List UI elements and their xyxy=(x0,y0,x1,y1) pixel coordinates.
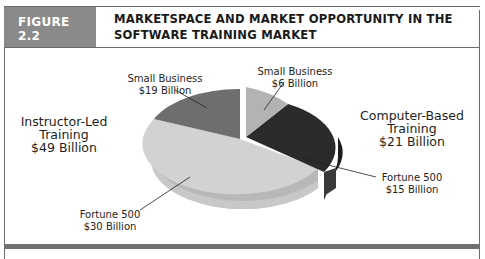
label-cb-fortune500: Fortune 500 $15 Billion xyxy=(372,172,452,196)
label-instructor-led: Instructor-Led Training $49 Billion xyxy=(14,115,114,154)
label-computer-based: Computer-Based Training $21 Billion xyxy=(352,109,472,148)
label-il-small-business: Small Business $19 Billion xyxy=(110,73,220,97)
label-cb-small-business: Small Business $6 Billion xyxy=(245,66,345,90)
label-il-fortune500: Fortune 500 $30 Billion xyxy=(65,209,155,233)
figure-bottom-rule xyxy=(4,244,480,249)
